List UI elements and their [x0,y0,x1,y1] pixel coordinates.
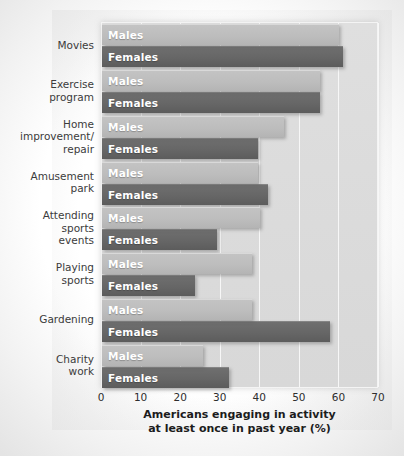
bar-series-label: Males [108,304,144,316]
bar-females-2: Females [102,138,258,159]
x-tick-50: 50 [292,391,305,403]
bar-series-label: Males [108,29,144,41]
gridline-70 [378,23,379,387]
bar-females-6: Females [102,321,330,342]
bar-series-label: Males [108,167,144,179]
category-label-7: Charity work [2,353,94,378]
gridline-60 [338,23,339,387]
bar-males-5: Males [102,253,252,274]
x-tick-10: 10 [134,391,147,403]
category-label-2: Home improvement/ repair [2,118,94,156]
bar-males-4: Males [102,207,260,228]
bar-males-7: Males [102,345,203,366]
bar-females-5: Females [102,275,195,296]
x-tick-40: 40 [253,391,266,403]
bar-males-2: Males [102,116,284,137]
category-label-5: Playing sports [2,261,94,286]
category-label-3: Amusement park [2,170,94,195]
bar-series-label: Females [108,234,158,246]
bar-series-label: Females [108,326,158,338]
bar-series-label: Males [108,258,144,270]
bar-series-label: Males [108,350,144,362]
x-tick-0: 0 [98,391,105,403]
bar-males-3: Males [102,162,258,183]
bar-series-label: Males [108,212,144,224]
category-label-1: Exercise program [2,78,94,103]
bar-females-0: Females [102,46,343,67]
bar-females-7: Females [102,367,229,388]
bar-females-1: Females [102,92,320,113]
category-label-4: Attending sports events [2,209,94,247]
bar-females-4: Females [102,229,217,250]
x-axis-title: Americans engaging in activity at least … [101,408,378,436]
bar-series-label: Males [108,121,144,133]
bar-males-0: Males [102,24,339,45]
bar-chart-figure: MalesFemalesMalesFemalesMalesFemalesMale… [0,0,404,456]
x-tick-20: 20 [173,391,186,403]
category-label-0: Movies [2,39,94,52]
category-label-6: Gardening [2,313,94,326]
bar-series-label: Females [108,51,158,63]
x-tick-70: 70 [371,391,384,403]
bar-males-6: Males [102,299,252,320]
x-axis-title-line-1: Americans engaging in activity [143,408,335,421]
bar-series-label: Females [108,189,158,201]
x-tick-60: 60 [332,391,345,403]
bar-females-3: Females [102,184,268,205]
bar-series-label: Females [108,372,158,384]
bar-series-label: Males [108,75,144,87]
x-tick-30: 30 [213,391,226,403]
plot-area: MalesFemalesMalesFemalesMalesFemalesMale… [101,22,378,388]
bar-series-label: Females [108,280,158,292]
bar-series-label: Females [108,97,158,109]
x-axis-title-line-2: at least once in past year (%) [101,422,378,436]
bar-males-1: Males [102,70,320,91]
bar-series-label: Females [108,143,158,155]
